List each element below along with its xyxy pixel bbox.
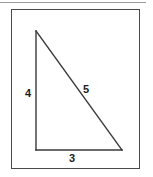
vertical-leg-label: 4 [25, 88, 31, 99]
hypotenuse-label: 5 [83, 84, 89, 95]
hypotenuse-line [36, 31, 122, 150]
right-triangle-shape [0, 0, 153, 177]
figure-container: 4 5 3 [0, 0, 153, 177]
horizontal-leg-label: 3 [69, 153, 75, 164]
